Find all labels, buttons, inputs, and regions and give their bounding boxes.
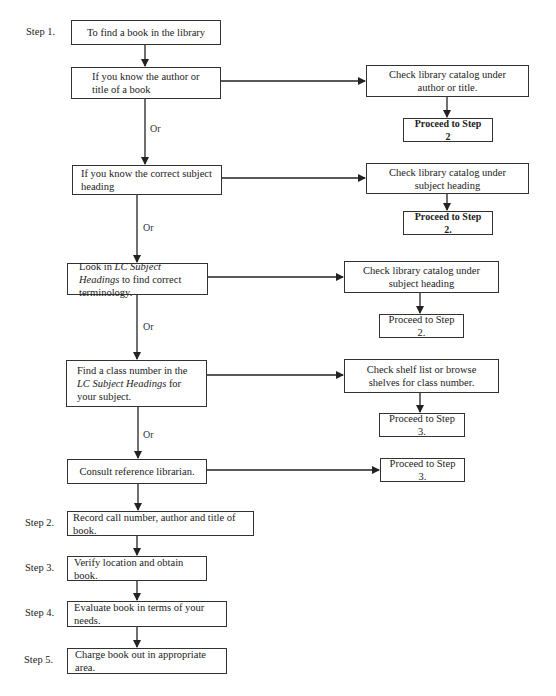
check-subject-lc-box: Check library catalog under subject head… bbox=[344, 261, 499, 293]
check-shelf-text: Check shelf list or browse shelves for c… bbox=[353, 363, 490, 389]
class-number-box: Find a class number in the LC Subject He… bbox=[66, 360, 207, 407]
step-5-label: Step 5. bbox=[24, 654, 53, 665]
step-3-label: Step 3. bbox=[25, 562, 54, 573]
proceed-text: Proceed to Step 3. bbox=[388, 412, 456, 438]
check-subject-lc-text: Check library catalog under subject head… bbox=[353, 264, 490, 290]
or-label: Or bbox=[143, 429, 154, 440]
or-label: Or bbox=[143, 222, 154, 233]
know-subject-box: If you know the correct subject heading bbox=[72, 165, 222, 195]
step-1-label: Step 1. bbox=[26, 26, 55, 37]
step3-text: Verify location and obtain book. bbox=[74, 556, 198, 582]
lc-headings-box: Look in LC Subject Headings to find corr… bbox=[67, 263, 208, 295]
step2-box: Record call number, author and title of … bbox=[67, 511, 254, 536]
step5-box: Charge book out in appropriate area. bbox=[67, 648, 227, 674]
start-box: To find a book in the library bbox=[71, 20, 221, 45]
check-subject-box: Check library catalog under subject head… bbox=[366, 163, 529, 194]
check-shelf-box: Check shelf list or browse shelves for c… bbox=[344, 359, 499, 393]
lc-headings-text: Look in LC Subject Headings to find corr… bbox=[79, 260, 199, 299]
or-label: Or bbox=[150, 123, 161, 134]
proceed-text: Proceed to Step 2. bbox=[388, 313, 455, 339]
step4-text: Evaluate book in terms of your needs. bbox=[74, 601, 218, 627]
step3-box: Verify location and obtain book. bbox=[67, 556, 207, 581]
proceed-step3-box-2: Proceed to Step 3. bbox=[380, 458, 465, 482]
consult-box: Consult reference librarian. bbox=[67, 459, 207, 484]
step4-box: Evaluate book in terms of your needs. bbox=[67, 601, 227, 627]
or-label: Or bbox=[143, 321, 154, 332]
proceed-text: Proceed to Step 3. bbox=[389, 457, 456, 483]
know-author-text: If you know the author or title of a boo… bbox=[92, 70, 212, 96]
proceed-step3-box-1: Proceed to Step 3. bbox=[379, 413, 465, 437]
connector-lines bbox=[0, 0, 556, 696]
proceed-step2-box-1: Proceed to Step 2 bbox=[403, 118, 493, 142]
check-author-box: Check library catalog under author or ti… bbox=[366, 65, 529, 97]
step-4-label: Step 4. bbox=[25, 607, 54, 618]
check-author-text: Check library catalog under author or ti… bbox=[375, 68, 520, 94]
know-subject-text: If you know the correct subject heading bbox=[81, 167, 213, 193]
know-author-box: If you know the author or title of a boo… bbox=[71, 67, 221, 99]
start-text: To find a book in the library bbox=[87, 26, 205, 39]
consult-text: Consult reference librarian. bbox=[79, 465, 194, 478]
step2-text: Record call number, author and title of … bbox=[73, 511, 245, 537]
step5-text: Charge book out in appropriate area. bbox=[75, 648, 218, 674]
proceed-step2-box-3: Proceed to Step 2. bbox=[379, 314, 464, 338]
proceed-text: Proceed to Step 2. bbox=[412, 210, 484, 236]
check-subject-text: Check library catalog under subject head… bbox=[375, 166, 520, 192]
proceed-text: Proceed to Step 2 bbox=[412, 117, 484, 143]
class-number-text: Find a class number in the LC Subject He… bbox=[77, 364, 198, 403]
step-2-label: Step 2. bbox=[25, 517, 54, 528]
proceed-step2-box-2: Proceed to Step 2. bbox=[403, 211, 493, 235]
